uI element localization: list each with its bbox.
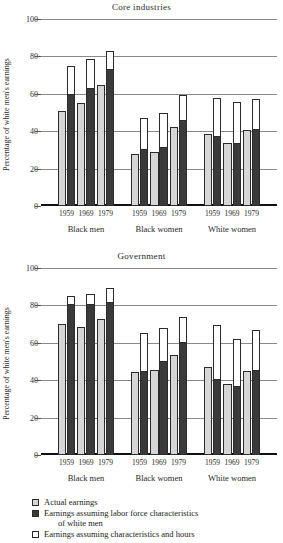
bar-segment-actual <box>58 324 66 455</box>
y-axis-tick-mark-40 <box>35 380 41 381</box>
x-axis-year-1969: 1969 <box>78 458 93 467</box>
bar-white-women-1969-adjusted <box>233 339 241 455</box>
y-axis-tick-mark-100 <box>35 19 41 20</box>
bar-black-men-1979-adjusted <box>106 51 114 206</box>
bar-segment-characteristics <box>213 136 221 206</box>
bar-white-women-1959-adjusted <box>213 98 221 206</box>
bar-white-women-1979-adjusted <box>252 330 260 455</box>
x-axis-group-black-men: Black men <box>68 473 105 483</box>
y-axis-tick-mark-80 <box>35 56 41 57</box>
bar-segment-actual <box>243 130 251 206</box>
x-axis-year-labels-core: 195919691979195919691979195919691979 <box>41 209 277 221</box>
y-axis-tick-mark-60 <box>35 94 41 95</box>
bar-segment-actual <box>77 103 85 206</box>
x-axis-year-1959: 1959 <box>59 209 74 218</box>
bar-segment-actual <box>243 371 251 455</box>
gridline-100 <box>41 19 277 20</box>
bar-segment-actual <box>150 152 158 206</box>
bar-black-women-1959-actual <box>131 154 139 206</box>
bar-white-women-1979-adjusted <box>252 99 260 206</box>
x-axis-group-black-women: Black women <box>136 224 183 234</box>
x-axis-year-1959: 1959 <box>132 209 147 218</box>
bar-black-women-1979-adjusted <box>179 95 187 206</box>
bar-segment-characteristics <box>179 120 187 206</box>
x-axis-year-1969: 1969 <box>152 209 167 218</box>
bar-segment-characteristics <box>252 129 260 206</box>
x-axis-year-1979: 1979 <box>171 209 186 218</box>
x-axis-year-1959: 1959 <box>205 209 220 218</box>
panel-core-industries: Core industries Percentage of white men'… <box>0 0 283 248</box>
bar-black-women-1979-adjusted <box>179 317 187 455</box>
bar-segment-characteristics <box>86 88 94 206</box>
bar-segment-actual <box>204 134 212 206</box>
bar-white-women-1979-actual <box>243 130 251 206</box>
x-axis-year-1969: 1969 <box>225 458 240 467</box>
bar-black-women-1969-adjusted <box>159 113 167 207</box>
chart-title-government: Government <box>0 249 283 262</box>
x-axis-year-1969: 1969 <box>152 458 167 467</box>
bar-white-women-1959-adjusted <box>213 325 221 455</box>
x-axis-group-labels-government: Black menBlack womenWhite women <box>41 473 277 485</box>
x-axis-group-white-women: White women <box>208 473 256 483</box>
bar-segment-characteristics <box>67 304 75 455</box>
bar-black-women-1969-actual <box>150 370 158 455</box>
x-axis-year-1969: 1969 <box>225 209 240 218</box>
bar-white-women-1959-actual <box>204 134 212 206</box>
bar-segment-actual <box>58 111 66 206</box>
x-axis-group-white-women: White women <box>208 224 256 234</box>
bar-black-men-1959-adjusted <box>67 296 75 455</box>
bar-black-men-1979-actual <box>97 85 105 206</box>
y-axis-tick-mark-60 <box>35 343 41 344</box>
chart-legend: Actual earnings Earnings assuming labor … <box>32 497 282 540</box>
x-axis-year-1959: 1959 <box>59 458 74 467</box>
bar-segment-actual <box>131 372 139 455</box>
bar-black-men-1969-adjusted <box>86 59 94 206</box>
plot-area-government: 020406080100 <box>41 268 277 455</box>
bar-black-women-1979-actual <box>170 127 178 206</box>
x-axis-year-1959: 1959 <box>205 458 220 467</box>
bar-black-men-1959-adjusted <box>67 66 75 206</box>
bar-black-men-1969-actual <box>77 327 85 455</box>
bar-white-women-1979-actual <box>243 371 251 455</box>
bar-white-women-1959-actual <box>204 367 212 455</box>
x-axis-year-1979: 1979 <box>98 458 113 467</box>
bar-segment-characteristics <box>106 69 114 206</box>
legend-item-labor-force-characteristics: Earnings assuming labor force characteri… <box>32 508 282 528</box>
gridline-100 <box>41 268 277 269</box>
bar-black-women-1969-adjusted <box>159 328 167 455</box>
bar-black-men-1979-adjusted <box>106 288 114 455</box>
bar-segment-actual <box>131 154 139 206</box>
bar-black-women-1959-adjusted <box>140 333 148 455</box>
bar-black-men-1969-adjusted <box>86 294 94 455</box>
y-axis-tick-mark-100 <box>35 268 41 269</box>
bar-segment-actual <box>223 384 231 455</box>
bar-segment-characteristics <box>233 386 241 455</box>
bar-segment-characteristics <box>140 371 148 455</box>
y-axis-label-government: Percentage of white men's earnings <box>0 268 13 458</box>
gridline-60 <box>41 94 277 95</box>
legend-label-labor-force-characteristics-line2: of white men <box>44 518 198 528</box>
y-axis-tick-mark-20 <box>35 169 41 170</box>
bar-black-women-1979-actual <box>170 355 178 455</box>
bar-segment-actual <box>170 355 178 455</box>
legend-item-actual-earnings: Actual earnings <box>32 497 282 507</box>
bar-segment-characteristics <box>106 302 114 455</box>
bar-segment-characteristics <box>233 143 241 206</box>
bar-segment-characteristics <box>67 94 75 206</box>
bar-segment-actual <box>223 143 231 206</box>
bar-segment-characteristics <box>140 149 148 206</box>
plot-area-core-industries: 020406080100 <box>41 19 277 206</box>
bar-white-women-1969-actual <box>223 143 231 206</box>
chart-title-core-industries: Core industries <box>0 0 283 13</box>
bar-segment-characteristics <box>159 147 167 206</box>
bar-segment-characteristics <box>86 304 94 455</box>
legend-label-actual-earnings: Actual earnings <box>44 497 98 507</box>
bar-segment-actual <box>204 367 212 455</box>
bar-segment-characteristics <box>252 370 260 455</box>
y-axis-tick-mark-0 <box>35 206 41 207</box>
bar-black-men-1959-actual <box>58 111 66 206</box>
bar-black-men-1979-actual <box>97 319 105 455</box>
bar-segment-actual <box>97 319 105 455</box>
y-axis-tick-mark-0 <box>35 455 41 456</box>
bar-black-men-1969-actual <box>77 103 85 206</box>
